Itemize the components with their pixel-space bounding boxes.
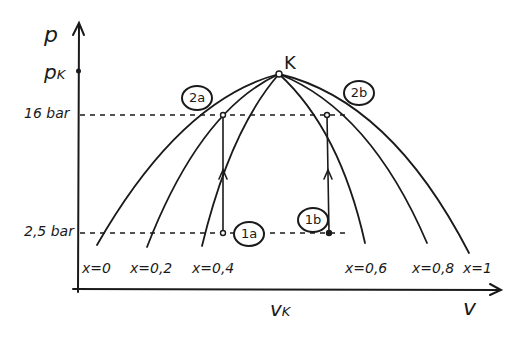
vk-label-main: v [270,297,282,321]
pk-tick [77,70,80,73]
y-axis-label: p [44,22,58,47]
x-axis-label: v [463,295,476,320]
p-v-diagram [0,0,527,339]
quality-label-x04: x=0,4 [192,260,234,276]
y-axis [78,24,79,292]
point-1a [221,231,226,236]
quality-label-x02: x=0,2 [130,260,172,276]
quality-label-x08: x=0,8 [412,260,454,276]
pk-label-sub: K [57,67,66,82]
quality-curves [97,74,469,253]
x-axis [73,289,500,290]
p25-label: 2,5 bar [24,223,74,239]
k-label: K [284,52,296,73]
state-label-2a: 2a [181,85,213,111]
pk-label-main: p [44,60,57,84]
state-label-2b: 2b [343,80,375,106]
p16-label: 16 bar [24,105,70,121]
pk-label: pK [44,60,65,84]
point-2b [325,113,330,118]
point-2a [221,113,226,118]
quality-label-x1: x=1 [463,260,492,276]
point-1b [327,231,332,236]
state-label-1a: 1a [233,221,265,247]
vk-label-sub: K [282,304,291,319]
quality-label-x0: x=0 [82,260,111,276]
vk-label: vK [270,297,290,321]
critical-point-k [276,71,282,77]
state-label-1b: 1b [297,207,329,233]
quality-label-x06: x=0,6 [345,260,387,276]
